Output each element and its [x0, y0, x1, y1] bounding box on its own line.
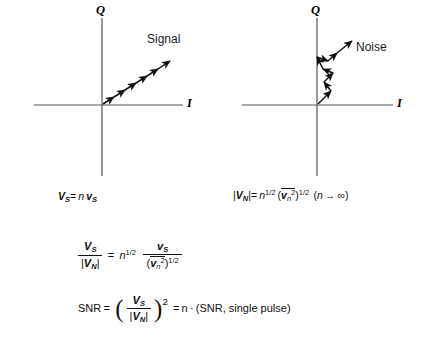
- equation-snr: SNR = ( VS |VN| )2 = n · (SNR, single pu…: [78, 294, 291, 325]
- panel-noise: Q I Noise |VN|= n1/2 (vn2)1/2 (n → ∞): [211, 0, 423, 220]
- caption-equals: =: [70, 190, 76, 202]
- caption-outer-exp: 1/2: [299, 188, 309, 197]
- snr-n: n: [182, 302, 188, 314]
- snr-equals-1: =: [103, 302, 109, 314]
- signal-caption: VS= n vS: [58, 190, 97, 204]
- panel-signal: Q I Signal VS= n vS: [0, 0, 212, 220]
- caption-v-sub: S: [92, 195, 97, 204]
- noise-random-walk: [317, 41, 352, 104]
- snr-tail: (SNR, single pulse): [196, 302, 291, 314]
- rhs-den-exp: 1/2: [168, 256, 178, 265]
- snr-den-abs-close: |: [145, 310, 148, 322]
- noise-q-axis-label: Q: [311, 3, 320, 18]
- snr-fraction: VS |VN|: [127, 294, 151, 325]
- lhs-denominator: |VN|: [78, 256, 102, 271]
- caption-n: n: [78, 190, 84, 202]
- signal-i-axis-label: I: [187, 96, 192, 111]
- signal-curve-label: Signal: [147, 32, 180, 46]
- multiply-dot-icon: ·: [190, 302, 194, 314]
- figure-root: Q I Signal VS= n vS: [0, 0, 423, 348]
- limit-infinity: ∞: [337, 189, 345, 201]
- snr-den-V: V: [132, 310, 139, 322]
- lhs-numerator: VS: [78, 240, 102, 255]
- paren-open-icon: (: [115, 300, 123, 318]
- snr-num-sub: S: [140, 299, 145, 308]
- ratio-n-exp: 1/2: [126, 248, 136, 257]
- ratio-equals: =: [108, 249, 114, 261]
- caption-n-exp: 1/2: [265, 188, 275, 197]
- lhs-num-sub: S: [91, 245, 96, 254]
- lhs-fraction: VS |VN|: [78, 240, 102, 271]
- rhs-denominator: (vn2)1/2: [143, 255, 181, 271]
- limit-n: n: [317, 189, 323, 201]
- snr-equals-2: =: [173, 302, 179, 314]
- caption-V: V: [58, 190, 65, 202]
- equations-block: VS |VN| = n1/2 vS (vn2)1/2 SNR = ( VS |V…: [0, 232, 423, 348]
- equation-ratio: VS |VN| = n1/2 vS (vn2)1/2: [78, 240, 182, 272]
- snr-label: SNR: [78, 302, 101, 314]
- rhs-numerator: vS: [143, 240, 181, 255]
- signal-q-axis-label: Q: [96, 3, 105, 18]
- mean-square-overline: vn2: [281, 188, 295, 203]
- snr-num-V: V: [133, 294, 140, 306]
- rhs-mean-square-overline: vn2: [150, 256, 164, 271]
- rhs-num-sub: S: [163, 245, 168, 254]
- noise-caption: |VN|= n1/2 (vn2)1/2 (n → ∞): [233, 188, 348, 203]
- snr-power: 2: [162, 296, 167, 307]
- snr-denominator: |VN|: [127, 309, 151, 324]
- limit-close: ): [345, 189, 349, 201]
- caption-V: V: [236, 189, 243, 201]
- snr-numerator: VS: [127, 294, 151, 309]
- noise-curve-label: Noise: [356, 40, 387, 54]
- lhs-den-abs-close: |: [97, 257, 100, 269]
- noise-iq-plot: [211, 0, 423, 220]
- signal-vector-chain: [103, 61, 170, 104]
- limit-arrow-icon: →: [325, 189, 336, 201]
- rhs-fraction: vS (vn2)1/2: [143, 240, 181, 272]
- caption-equals: =: [251, 189, 257, 201]
- noise-i-axis-label: I: [397, 96, 402, 111]
